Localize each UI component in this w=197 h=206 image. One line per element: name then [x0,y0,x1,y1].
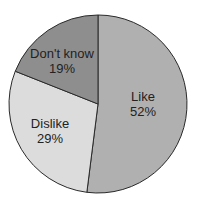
slice-label-dislike: Dislike 29% [31,116,69,146]
slice-value-dislike: 29% [31,131,69,146]
slice-label-dont-know: Don't know 19% [30,46,94,76]
slice-value-like: 52% [130,104,156,119]
slice-category-like: Like [130,89,156,104]
slice-category-dislike: Dislike [31,116,69,131]
slice-value-dont-know: 19% [30,61,94,76]
slice-category-dont-know: Don't know [30,46,94,61]
pie-chart [0,0,197,206]
slice-label-like: Like 52% [130,89,156,119]
